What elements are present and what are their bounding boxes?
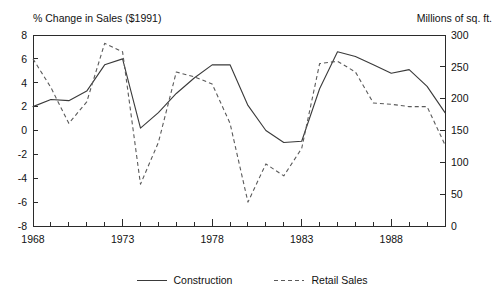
- series-line-retail-sales: [33, 43, 445, 202]
- svg-text:1978: 1978: [200, 233, 224, 245]
- svg-text:50: 50: [451, 188, 463, 200]
- svg-text:2: 2: [21, 100, 27, 112]
- svg-text:1983: 1983: [290, 233, 314, 245]
- chart-container: % Change in Sales ($1991) Millions of sq…: [0, 0, 504, 301]
- line-chart-plot: 86420-2-4-6-8 300250200150100500 1968197…: [0, 0, 504, 301]
- svg-text:0: 0: [451, 220, 457, 232]
- svg-text:150: 150: [451, 124, 469, 136]
- svg-text:-8: -8: [18, 220, 27, 232]
- svg-text:1988: 1988: [380, 233, 404, 245]
- data-series-group: [33, 43, 445, 202]
- legend-item-construction: Construction: [137, 274, 233, 286]
- chart-legend: Construction Retail Sales: [0, 270, 504, 290]
- svg-text:-2: -2: [18, 148, 27, 160]
- plot-frame: [33, 35, 445, 226]
- svg-text:6: 6: [21, 53, 27, 65]
- x-axis-tick-labels: 19681973197819831988: [21, 233, 403, 245]
- legend-label-construction: Construction: [174, 274, 233, 286]
- svg-text:100: 100: [451, 156, 469, 168]
- series-line-construction: [33, 52, 445, 143]
- legend-swatch-dashed: [274, 276, 304, 285]
- svg-text:300: 300: [451, 29, 469, 41]
- svg-text:1968: 1968: [21, 233, 45, 245]
- svg-text:1973: 1973: [111, 233, 135, 245]
- legend-label-retail-sales: Retail Sales: [311, 274, 367, 286]
- right-axis-ticks: [440, 35, 445, 226]
- svg-text:200: 200: [451, 92, 469, 104]
- legend-item-retail-sales: Retail Sales: [274, 274, 367, 286]
- svg-text:-4: -4: [18, 172, 27, 184]
- x-axis-ticks: [33, 219, 445, 226]
- left-axis-ticks: [33, 35, 38, 226]
- left-axis-tick-labels: 86420-2-4-6-8: [18, 29, 28, 232]
- svg-text:0: 0: [21, 124, 27, 136]
- svg-text:250: 250: [451, 61, 469, 73]
- right-axis-tick-labels: 300250200150100500: [451, 29, 469, 232]
- svg-text:4: 4: [21, 77, 27, 89]
- legend-swatch-solid: [137, 276, 167, 285]
- svg-text:-6: -6: [18, 196, 27, 208]
- svg-text:8: 8: [21, 29, 27, 41]
